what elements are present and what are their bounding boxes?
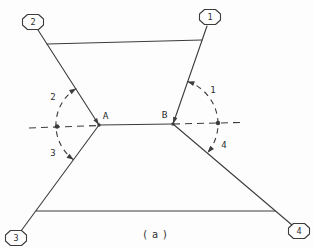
arc-arrowhead-angle4 [208,146,214,153]
baseline-dashed-left [29,126,99,129]
vertex-node-4-label: 4 [296,226,301,236]
figure-caption: (a) [133,229,181,240]
angle-label-3: 3 [50,148,55,158]
top-crossbar-line [47,40,202,44]
reference-dot-right [216,121,220,125]
diagram-stage: 1234AB1234 (a) [0,0,314,248]
point-A-label: A [103,110,109,121]
point-B-label: B [162,109,168,120]
vertex-node-2-label: 2 [30,17,35,27]
angle-arc-A [56,88,76,159]
junction-dot-A [97,123,100,126]
angle-label-4: 4 [221,140,226,150]
angle-label-2: 2 [50,92,55,102]
vertex-node-3-label: 3 [13,233,18,243]
arc-arrowhead-angle1 [187,81,194,86]
junction-dot-B [171,122,174,125]
link-node3-to-A [21,125,99,231]
reference-dot-left [55,124,59,128]
angle-label-1: 1 [210,85,215,95]
diagram-canvas: 1234AB1234 [0,0,314,248]
arc-arrowhead-angle2 [69,88,76,94]
arc-arrowhead-angle3 [67,154,74,160]
link-node4-to-B [173,124,292,225]
baseline-dashed-right [173,123,240,125]
vertex-node-1-label: 1 [207,12,212,22]
segment-A-B [99,124,173,125]
